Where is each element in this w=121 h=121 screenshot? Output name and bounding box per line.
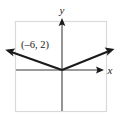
y-axis: y bbox=[59, 4, 66, 111]
left-ray bbox=[12, 52, 62, 70]
figure-canvas: x y (–6, 2) bbox=[0, 0, 121, 121]
x-axis-label: x bbox=[107, 64, 113, 76]
absolute-value-graph bbox=[5, 47, 114, 70]
right-ray bbox=[62, 52, 108, 71]
plot-frame bbox=[16, 22, 107, 112]
y-axis-label: y bbox=[59, 4, 65, 16]
point-label: (–6, 2) bbox=[21, 39, 49, 51]
coordinate-plane-figure: x y (–6, 2) bbox=[0, 0, 121, 121]
